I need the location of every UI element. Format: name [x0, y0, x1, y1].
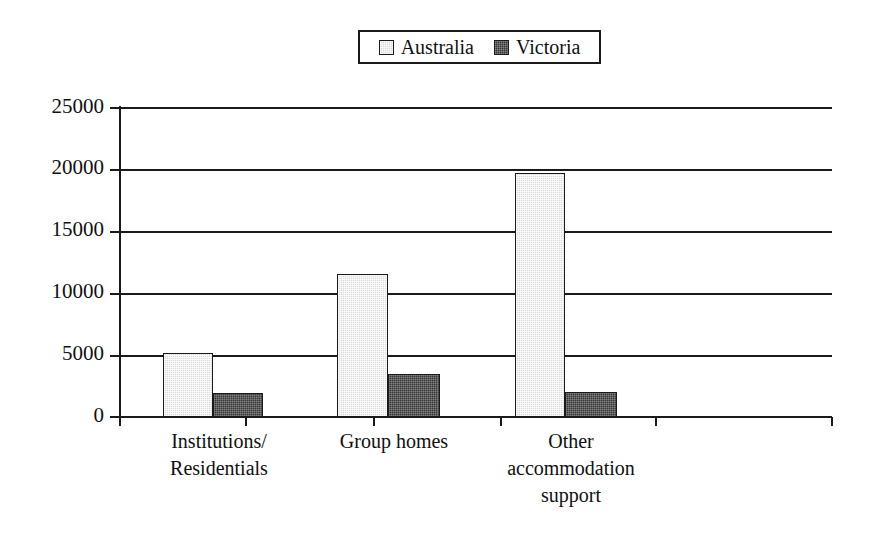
y-tick-label-5000: 5000 [4, 343, 104, 364]
legend-swatch-victoria-icon [494, 40, 509, 55]
bar-australia-other-accommodation-support [515, 173, 565, 417]
legend-label-australia: Australia [401, 37, 474, 57]
bars-layer [119, 107, 832, 417]
category-label-line: Group homes [304, 428, 484, 455]
x-tick-mark-1 [245, 417, 247, 426]
category-label-line: Institutions/ [129, 428, 309, 455]
y-tick-mark-25000 [110, 107, 119, 109]
x-tick-mark-0 [119, 417, 121, 426]
x-tick-mark-4 [655, 417, 657, 426]
y-tick-label-0: 0 [4, 405, 104, 426]
legend-label-victoria: Victoria [516, 37, 580, 57]
x-tick-mark-3 [500, 417, 502, 426]
legend-swatch-australia-icon [379, 40, 394, 55]
y-axis-tick-labels: 25000 20000 15000 10000 5000 0 [0, 0, 104, 552]
category-label-institutions-residentials: Institutions/ Residentials [129, 428, 309, 482]
category-label-line: Other [481, 428, 661, 455]
y-tick-mark-5000 [110, 355, 119, 357]
legend-entry-victoria: Victoria [494, 37, 580, 57]
bar-australia-institutions-residentials [163, 353, 213, 417]
bar-chart-figure: Australia Victoria 25000 20000 15000 100… [0, 0, 874, 552]
bar-victoria-group-homes [388, 374, 440, 417]
y-tick-label-25000: 25000 [4, 96, 104, 117]
y-tick-mark-20000 [110, 169, 119, 171]
category-label-line: accommodation [481, 455, 661, 482]
y-tick-mark-0 [110, 416, 119, 418]
y-tick-label-10000: 10000 [4, 281, 104, 302]
bar-victoria-other-accommodation-support [565, 392, 617, 417]
y-tick-mark-15000 [110, 231, 119, 233]
bar-australia-group-homes [337, 274, 388, 417]
category-label-line: support [481, 482, 661, 509]
legend-entry-australia: Australia [379, 37, 474, 57]
x-tick-mark-2 [373, 417, 375, 426]
chart-legend: Australia Victoria [358, 30, 601, 64]
y-tick-label-15000: 15000 [4, 219, 104, 240]
category-label-group-homes: Group homes [304, 428, 484, 455]
bar-victoria-institutions-residentials [213, 393, 263, 417]
y-tick-label-20000: 20000 [4, 157, 104, 178]
x-axis-category-labels: Institutions/ Residentials Group homes O… [119, 428, 832, 538]
y-tick-mark-10000 [110, 293, 119, 295]
x-tick-mark-5 [831, 417, 833, 426]
category-label-line: Residentials [129, 455, 309, 482]
category-label-other-accommodation-support: Other accommodation support [481, 428, 661, 509]
